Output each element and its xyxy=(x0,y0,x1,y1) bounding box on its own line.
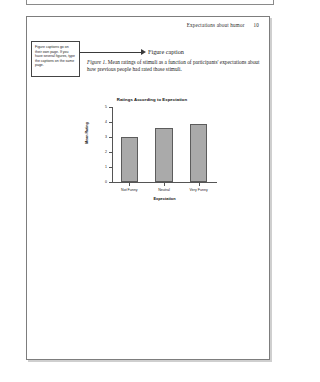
bar xyxy=(121,137,138,182)
y-axis-tick xyxy=(109,167,112,168)
y-axis-tick xyxy=(109,137,112,138)
figure-caption-number: Figure 1 xyxy=(87,59,105,65)
plot-area xyxy=(112,107,216,182)
bar xyxy=(155,128,172,182)
figure-caption: Figure 1. Mean ratings of stimuli as a f… xyxy=(87,59,265,74)
running-head-title: Expectations about humor xyxy=(187,22,245,28)
y-axis-tick xyxy=(109,152,112,153)
previous-page-edge xyxy=(26,0,274,5)
y-axis-tick-label: 5 xyxy=(100,105,107,109)
chart-title: Ratings According to Expectation xyxy=(82,97,222,102)
page-number: 10 xyxy=(254,22,259,28)
y-axis-tick-label: 2 xyxy=(100,150,107,154)
x-axis-tick-label: Very Funny xyxy=(179,188,219,192)
figure-caption-text: . Mean ratings of stimuli as a function … xyxy=(87,59,259,72)
x-axis-title: Expectation xyxy=(112,196,217,201)
y-axis-tick xyxy=(109,122,112,123)
y-axis-tick-label: 0 xyxy=(100,180,107,184)
callout-note-box: Figure captions go on their own page. If… xyxy=(31,41,80,77)
callout-note-text: Figure captions go on their own page. If… xyxy=(35,45,75,67)
y-axis-tick-label: 3 xyxy=(100,135,107,139)
bar-chart-figure: Ratings According to Expectation Mean Ra… xyxy=(82,97,222,209)
callout-leader-line xyxy=(80,52,143,53)
x-axis-tick xyxy=(129,183,130,186)
running-head: Expectations about humor10 xyxy=(187,22,259,28)
y-axis-tick xyxy=(109,182,112,183)
x-axis-tick xyxy=(164,183,165,186)
y-axis-tick xyxy=(109,107,112,108)
x-axis-tick xyxy=(199,183,200,186)
y-axis-tick-label: 1 xyxy=(100,165,107,169)
y-axis-title: Mean Rating xyxy=(85,115,89,151)
y-axis-tick-label: 4 xyxy=(100,120,107,124)
arrow-right-icon xyxy=(141,49,146,55)
manuscript-page: Expectations about humor10 Figure captio… xyxy=(26,16,270,360)
callout-label: Figure caption xyxy=(148,48,184,55)
bar xyxy=(190,124,207,183)
